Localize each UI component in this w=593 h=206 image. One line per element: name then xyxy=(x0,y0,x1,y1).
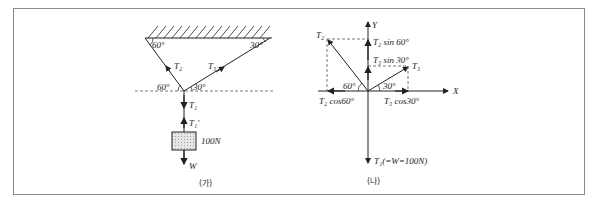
tension-up-label: T₁' xyxy=(189,118,200,128)
angle-left-b: 60° xyxy=(343,81,356,91)
angle-top-right: 30° xyxy=(249,40,263,50)
angle-bottom-right: 30° xyxy=(192,82,206,92)
angle-top-left: 60° xyxy=(152,40,165,50)
t3-cos-label: T₃ cos30° xyxy=(384,96,419,106)
x-axis-label: X xyxy=(452,86,459,96)
physics-diagram: 60° 30° 60° 30° T₂ T₃ T₁ T₁' 100N W (가) … xyxy=(0,0,593,206)
t3-label: T₃ xyxy=(412,61,420,71)
t2-label: T₂ xyxy=(316,30,324,40)
t2-sin-label: T₂ sin 60° xyxy=(373,37,409,47)
figure-a: 60° 30° 60° 30° T₂ T₃ T₁ T₁' 100N W (가) xyxy=(135,26,275,188)
t3-sin-label: T₃ sin 30° xyxy=(373,55,409,65)
ceiling xyxy=(145,26,272,38)
weight-label: W xyxy=(189,161,198,171)
mass-box xyxy=(172,132,196,150)
rope-right-label: T₃ xyxy=(208,61,216,71)
t1-label: T₁(=W=100N) xyxy=(374,156,427,166)
angle-right-b: 30° xyxy=(382,81,396,91)
t2-cos-label: T₂ cos60° xyxy=(319,96,354,106)
y-axis-label: Y xyxy=(372,20,378,30)
angle-bottom-left: 60° xyxy=(157,82,170,92)
caption-b: (나) xyxy=(367,177,380,186)
figure-b: Y X T₂ T₃ T₂ sin 60° T₃ sin 30° T₂ cos60… xyxy=(316,20,459,186)
mass-label: 100N xyxy=(201,136,222,146)
tension-down-label: T₁ xyxy=(189,100,197,110)
rope-left-label: T₂ xyxy=(174,61,182,71)
caption-a: (가) xyxy=(199,179,212,188)
